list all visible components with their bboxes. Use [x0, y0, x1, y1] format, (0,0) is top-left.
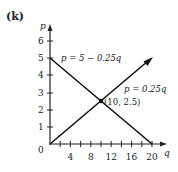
y-tick-1: 1	[38, 122, 44, 132]
x-axis-arrow-icon	[160, 142, 167, 147]
equilibrium-chart: (k) p q 1 2 3 4 5 6 0 4 8 12	[0, 0, 178, 172]
x-tick-8: 8	[88, 152, 94, 162]
y-tick-3: 3	[38, 88, 44, 98]
y-tick-labels: 1 2 3 4 5 6	[38, 36, 44, 132]
y-tick-4: 4	[38, 70, 44, 80]
x-tick-4: 4	[68, 152, 74, 162]
x-tick-20: 20	[146, 152, 158, 162]
supply-label: p = 0.25q	[124, 84, 167, 94]
intersection-label: (10, 2.5)	[104, 97, 140, 107]
y-tick-2: 2	[38, 105, 44, 115]
y-axis-label: p	[40, 21, 46, 31]
origin-label: 0	[38, 145, 44, 155]
x-axis-label: q	[164, 148, 170, 158]
x-tick-labels: 4 8 12 16 20	[68, 152, 158, 162]
intersection-point	[99, 99, 103, 103]
y-tick-5: 5	[38, 53, 44, 63]
demand-label: p = 5 − 0.25q	[61, 53, 122, 63]
x-tick-16: 16	[126, 152, 138, 162]
panel-label: (k)	[6, 10, 24, 23]
y-axis-arrow-icon	[48, 24, 53, 31]
y-tick-6: 6	[38, 36, 44, 46]
x-tick-12: 12	[105, 152, 116, 162]
